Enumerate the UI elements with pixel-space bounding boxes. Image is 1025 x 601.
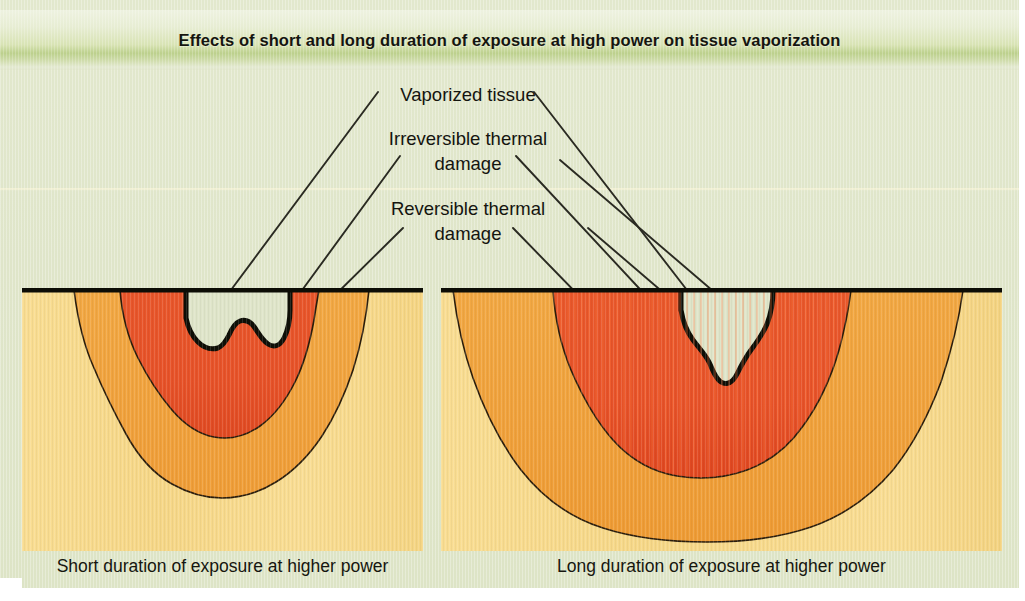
caption-short-duration: Short duration of exposure at higher pow… bbox=[22, 556, 423, 577]
callout-label-reversible-thermal-damage-line2: damage bbox=[318, 221, 618, 246]
callout-label-irreversible-thermal-damage-line1: Irreversible thermal bbox=[318, 126, 618, 151]
caption-long-duration: Long duration of exposure at higher powe… bbox=[441, 556, 1002, 577]
callout-label-irreversible-thermal-damage-line2: damage bbox=[318, 151, 618, 176]
page-trim-bottom bbox=[0, 588, 1025, 601]
panel-long-duration bbox=[441, 288, 1002, 551]
tissue-texture-overlay bbox=[22, 288, 423, 551]
callout-label-reversible-thermal-damage-line1: Reversible thermal bbox=[318, 196, 618, 221]
callout-label-group: Vaporized tissue Irreversible thermal da… bbox=[318, 82, 618, 246]
tissue-texture-overlay bbox=[441, 288, 1002, 551]
page-title: Effects of short and long duration of ex… bbox=[0, 10, 1019, 70]
diagram-page: Effects of short and long duration of ex… bbox=[0, 0, 1025, 601]
panel-long-duration-illustration bbox=[441, 288, 1002, 551]
panel-short-duration-illustration bbox=[22, 288, 423, 551]
callout-label-vaporized-tissue: Vaporized tissue bbox=[318, 82, 618, 107]
page-trim-bottom-left bbox=[0, 578, 22, 588]
page-trim-right bbox=[1019, 0, 1025, 601]
panel-short-duration bbox=[22, 288, 423, 551]
header-band: Effects of short and long duration of ex… bbox=[0, 10, 1019, 70]
